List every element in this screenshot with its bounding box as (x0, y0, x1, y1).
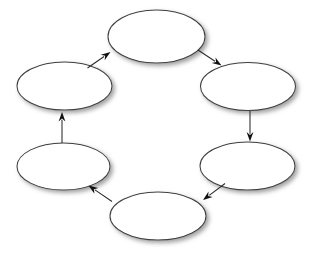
node-lower-right-shape[interactable] (200, 142, 295, 190)
node-lower-left-shape[interactable] (17, 143, 110, 190)
node-top[interactable] (108, 10, 205, 63)
node-upper-left[interactable] (17, 62, 112, 110)
node-upper-left-shape[interactable] (17, 62, 112, 110)
node-upper-right-shape[interactable] (201, 63, 296, 111)
node-lower-left[interactable] (17, 143, 110, 190)
node-bottom[interactable] (110, 192, 206, 240)
node-lower-right[interactable] (200, 142, 295, 190)
cycle-diagram-canvas (0, 0, 312, 253)
node-bottom-shape[interactable] (110, 192, 206, 240)
cycle-diagram (0, 0, 312, 253)
node-upper-right[interactable] (201, 63, 296, 111)
node-top-shape[interactable] (108, 10, 205, 63)
